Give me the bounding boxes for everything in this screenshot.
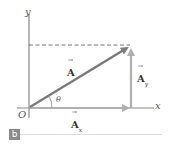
vector-ay-label: → Ay (137, 67, 148, 87)
origin-label: O (18, 109, 26, 120)
panel-label: b (9, 129, 20, 140)
vector-arrow-icon: → (72, 108, 77, 115)
vector-ax-label: → Ax (71, 113, 82, 133)
y-axis-label: y (25, 6, 31, 17)
panel-divider (20, 134, 162, 135)
vector-a (30, 48, 127, 107)
x-axis-label: x (155, 100, 161, 111)
angle-label: θ (56, 95, 61, 104)
vector-arrow-icon: → (138, 62, 143, 69)
vector-a-label: → A (67, 61, 75, 80)
vector-arrow-icon: → (68, 56, 73, 63)
angle-arc (49, 96, 52, 108)
